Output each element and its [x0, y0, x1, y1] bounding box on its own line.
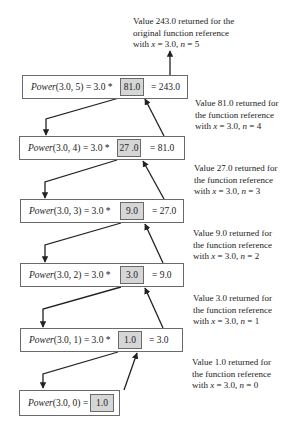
call-expression: Power(3.0, 4) = 3.0 *	[28, 143, 110, 153]
note-line: Value 243.0 returned for the	[133, 16, 234, 28]
note-line: with x = 3.0, n = 5	[133, 39, 234, 51]
returned-value-box: 9.0	[120, 202, 144, 220]
note-text: with	[195, 121, 213, 131]
note-text: = 3.0,	[216, 186, 241, 196]
note-text: = 3.0,	[155, 39, 180, 49]
return-note-n3: Value 27.0 returned for the function ref…	[194, 163, 277, 198]
operator: = 3.0 *	[81, 143, 110, 153]
note-text: = 2	[245, 251, 259, 261]
function-args: (3.0, 1)	[54, 335, 82, 345]
note-text: = 3.0,	[215, 251, 240, 261]
return-note-n1: Value 3.0 returned for the function refe…	[193, 293, 272, 328]
call-frame-n4: Power(3.0, 4) = 3.0 * 27 .0 = 81.0	[19, 136, 185, 160]
function-name: Power	[29, 206, 54, 216]
function-args: (3.0, 3)	[54, 206, 82, 216]
result-value: = 81.0	[150, 143, 174, 153]
call-expression: Power(3.0, 1) = 3.0 *	[29, 335, 111, 345]
operator: = 3.0 *	[82, 206, 111, 216]
operator: = 3.0 *	[82, 270, 111, 280]
function-args: (3.0, 5)	[56, 82, 84, 92]
operator: =	[81, 398, 89, 408]
note-text: = 3.0,	[217, 121, 242, 131]
operator: = 3.0 *	[82, 335, 111, 345]
note-line: Value 27.0 returned for	[194, 163, 277, 175]
returned-value-box: 3.0	[120, 266, 144, 284]
call-frame-n5: Power(3.0, 5) = 3.0 * 81.0 = 243.0	[22, 75, 188, 99]
return-note-n0: Value 1.0 returned for the function refe…	[192, 357, 271, 392]
note-text: with	[193, 251, 211, 261]
function-name: Power	[31, 82, 56, 92]
function-name: Power	[28, 398, 53, 408]
note-text: = 4	[247, 121, 261, 131]
operator: = 3.0 *	[84, 82, 113, 92]
note-line: Value 81.0 returned for	[195, 98, 278, 110]
function-args: (3.0, 2)	[54, 270, 82, 280]
return-note-n5: Value 243.0 returned for the original fu…	[133, 16, 234, 51]
result-value: = 9.0	[152, 270, 172, 280]
note-line: the function reference	[192, 369, 271, 381]
note-line: the function reference	[193, 240, 272, 252]
note-line: Value 9.0 returned for	[193, 228, 272, 240]
call-frame-n3: Power(3.0, 3) = 3.0 * 9.0 = 27.0	[20, 199, 184, 223]
note-line: the function reference	[193, 305, 272, 317]
note-text: with	[133, 39, 151, 49]
note-text: = 3	[246, 186, 260, 196]
returned-value-box: 1.0	[118, 331, 142, 349]
result-value: = 3.0	[149, 335, 169, 345]
function-args: (3.0, 0)	[53, 398, 81, 408]
function-name: Power	[29, 335, 54, 345]
note-line: the function reference	[195, 110, 278, 122]
note-text: = 3.0,	[215, 316, 240, 326]
note-text: = 0	[244, 380, 258, 390]
return-note-n2: Value 9.0 returned for the function refe…	[193, 228, 272, 263]
note-text: with	[193, 316, 211, 326]
note-text: with	[194, 186, 212, 196]
note-text: with	[192, 380, 210, 390]
result-value: = 27.0	[152, 206, 176, 216]
call-expression: Power(3.0, 2) = 3.0 *	[29, 270, 111, 280]
note-line: the function reference	[194, 175, 277, 187]
call-frame-n1: Power(3.0, 1) = 3.0 * 1.0 = 3.0	[20, 328, 183, 352]
note-line: with x = 3.0, n = 1	[193, 316, 272, 328]
note-line: Value 3.0 returned for	[193, 293, 272, 305]
return-note-n4: Value 81.0 returned for the function ref…	[195, 98, 278, 133]
call-frame-n0: Power(3.0, 0) = 1.0	[19, 390, 120, 416]
note-line: with x = 3.0, n = 2	[193, 251, 272, 263]
note-line: with x = 3.0, n = 4	[195, 121, 278, 133]
note-line: with x = 3.0, n = 3	[194, 186, 277, 198]
base-case-value-box: 1.0	[90, 394, 114, 412]
note-line: with x = 3.0, n = 0	[192, 380, 271, 392]
note-text: = 1	[245, 316, 259, 326]
result-value: = 243.0	[151, 82, 180, 92]
function-args: (3.0, 4)	[53, 143, 81, 153]
call-expression: Power(3.0, 0) =	[28, 398, 88, 408]
call-expression: Power(3.0, 3) = 3.0 *	[29, 206, 111, 216]
note-line: Value 1.0 returned for	[192, 357, 271, 369]
note-text: = 5	[185, 39, 199, 49]
returned-value-box: 81.0	[120, 78, 144, 96]
call-frame-n2: Power(3.0, 2) = 3.0 * 3.0 = 9.0	[20, 263, 184, 287]
call-expression: Power(3.0, 5) = 3.0 *	[31, 82, 113, 92]
function-name: Power	[28, 143, 53, 153]
note-line: original function reference	[133, 28, 234, 40]
function-name: Power	[29, 270, 54, 280]
note-text: = 3.0,	[214, 380, 239, 390]
returned-value-box: 27 .0	[117, 139, 141, 157]
